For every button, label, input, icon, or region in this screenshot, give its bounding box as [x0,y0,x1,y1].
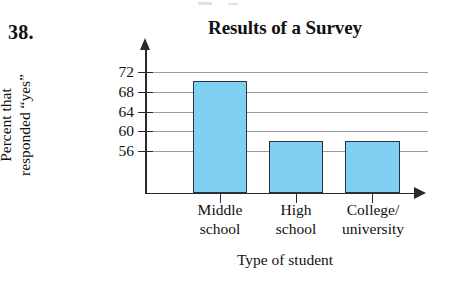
y-axis-arrow-icon [140,38,150,50]
bar-college-university [345,141,400,193]
x-tick-label-line-2: university [328,219,418,238]
bar-high-school [269,141,323,193]
y-tick-label-56: 56 [100,143,134,159]
x-axis-title: Type of student [150,252,420,268]
y-tick-label-68: 68 [100,84,134,100]
survey-bar-chart-figure: 38. Results of a Survey Percent that res… [0,0,450,288]
y-tick-label-64: 64 [100,104,134,120]
bar-middle-school [193,81,247,193]
plot-area: 72 68 64 60 56 Middle school High school… [0,0,450,288]
y-tick-label-72: 72 [100,64,134,80]
y-tick-label-60: 60 [100,123,134,139]
x-axis-arrow-icon [414,187,426,199]
gridline-72 [146,72,428,73]
gridline-64 [146,112,428,113]
x-axis-line [145,193,417,195]
x-tick-label-middle-school: Middle school [177,200,263,238]
gridline-60 [146,131,428,132]
x-tick-label-line-1: Middle [177,200,263,219]
x-tick-label-line-1: High [256,200,336,219]
x-tick-label-high-school: High school [256,200,336,238]
x-tick-label-line-2: school [177,219,263,238]
x-tick-label-line-1: College/ [328,200,418,219]
gridline-68 [146,92,428,93]
x-tick-label-college-university: College/ university [328,200,418,238]
y-axis-line [145,48,147,194]
x-tick-label-line-2: school [256,219,336,238]
